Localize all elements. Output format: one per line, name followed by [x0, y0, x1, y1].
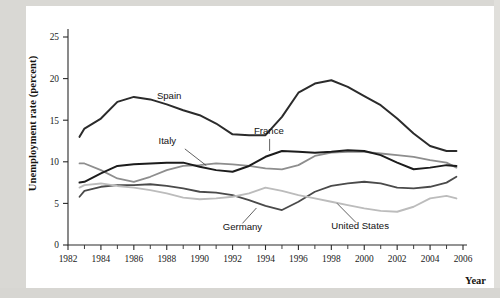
x-tick-label: 1996 — [289, 254, 308, 264]
x-tick-label: 1986 — [124, 254, 143, 264]
line-chart: 0510152025198219841986198819901992199419… — [0, 0, 500, 298]
series-annotation-france: France — [254, 125, 284, 136]
x-tick-label: 2002 — [388, 254, 407, 264]
x-tick-label: 2004 — [421, 254, 440, 264]
y-tick-label: 15 — [50, 116, 60, 126]
x-tick-label: 1990 — [190, 254, 209, 264]
series-annotation-united-states: United States — [331, 220, 389, 231]
x-axis-label: Year — [465, 275, 486, 286]
y-axis-label-wrap: Unemployment rate (percent) — [0, 0, 1, 1]
x-tick-label: 1984 — [92, 254, 111, 264]
chart-screenshot: 0510152025198219841986198819901992199419… — [0, 0, 500, 298]
x-tick-label: 2000 — [355, 254, 374, 264]
x-tick-label: 1992 — [223, 254, 242, 264]
series-annotation-italy: Italy — [159, 135, 177, 146]
series-annotation-germany: Germany — [223, 221, 263, 232]
y-tick-label: 20 — [50, 74, 60, 84]
series-group — [80, 80, 457, 211]
y-axis-ticks: 0510152025 — [50, 32, 68, 250]
y-tick-label: 0 — [54, 240, 59, 250]
x-axis-ticks: 1982198419861988199019921994199619982000… — [59, 245, 473, 264]
axis-lines — [68, 29, 467, 245]
series-annotation-spain: Spain — [157, 90, 182, 101]
y-axis-label: Unemployment rate (percent) — [27, 4, 38, 244]
y-tick-label: 5 — [54, 199, 59, 209]
y-tick-label: 25 — [50, 32, 60, 42]
series-line-spain — [80, 80, 457, 151]
x-tick-label: 2006 — [454, 254, 473, 264]
y-tick-label: 10 — [50, 157, 60, 167]
x-tick-label: 1988 — [157, 254, 176, 264]
x-tick-label: 1994 — [256, 254, 275, 264]
x-tick-label: 1982 — [59, 254, 78, 264]
x-tick-label: 1998 — [322, 254, 341, 264]
annotations-group: SpainItalyFranceGermanyUnited States — [157, 90, 389, 232]
